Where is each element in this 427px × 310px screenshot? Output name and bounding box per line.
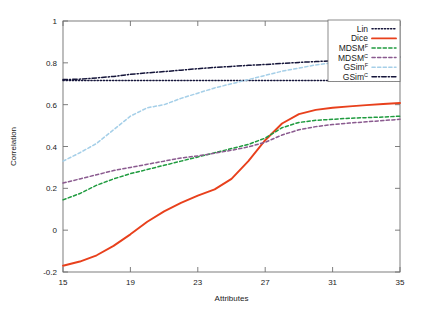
x-tick-label-4: 31: [328, 278, 337, 287]
x-tick-label-2: 23: [193, 278, 202, 287]
x-tick-label-3: 27: [261, 278, 270, 287]
y-tick-label-3: 0.4: [46, 143, 58, 152]
x-axis-label: Attributes: [215, 294, 249, 303]
y-axis-label: Correlation: [9, 127, 18, 166]
legend-label-dice: Dice: [351, 33, 368, 43]
x-tick-label-0: 15: [59, 278, 68, 287]
y-tick-label-4: 0.6: [46, 101, 58, 110]
legend-label-mdsm-f: MDSMF: [339, 43, 369, 53]
y-tick-label-2: 0.2: [46, 184, 58, 193]
legend-label-mdsm-c: MDSMC: [338, 53, 368, 63]
y-tick-label-0: -0.2: [43, 268, 57, 277]
x-tick-label-1: 19: [126, 278, 135, 287]
correlation-line-chart: -0.200.20.40.60.81151923273135Attributes…: [0, 0, 427, 310]
y-tick-label-6: 1: [53, 17, 58, 26]
y-tick-label-5: 0.8: [46, 59, 58, 68]
legend-label-lin: Lin: [357, 24, 369, 34]
x-tick-label-5: 35: [396, 278, 405, 287]
chart-figure: -0.200.20.40.60.81151923273135Attributes…: [0, 0, 427, 310]
y-tick-label-1: 0: [53, 226, 58, 235]
